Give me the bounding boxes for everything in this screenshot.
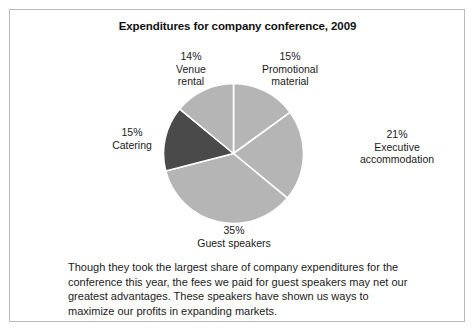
pie-slices <box>164 84 304 224</box>
figure-caption: Though they took the largest share of co… <box>68 260 416 318</box>
pie-label-executive-accommodation: 21% Executive accommodation <box>326 128 468 166</box>
chart-title: Expenditures for company conference, 200… <box>0 20 475 32</box>
pie-label-promotional-material: 15% Promotional material <box>238 50 342 88</box>
pie-label-catering: 15% Catering <box>92 126 172 151</box>
pie-label-venue-rental: 14% Venue rental <box>148 50 234 88</box>
pie-chart-svg <box>163 83 304 224</box>
pie-label-guest-speakers: 35% Guest speakers <box>158 224 310 249</box>
figure-container: Expenditures for company conference, 200… <box>0 0 475 331</box>
pie-chart <box>163 83 304 224</box>
